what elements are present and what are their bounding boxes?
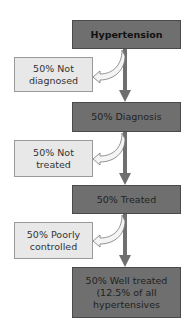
- poorly-controlled-label: 50% Poorly controlled: [25, 229, 82, 253]
- hypertension-box: Hypertension: [72, 20, 181, 49]
- not-diagnosed-box: 50% Not diagnosed: [14, 57, 93, 92]
- well-treated-label: 50% Well treated (12.5% of all hypertens…: [81, 275, 172, 311]
- well-treated-box: 50% Well treated (12.5% of all hypertens…: [72, 267, 181, 318]
- treated-box: 50% Treated: [72, 185, 181, 214]
- diagnosis-label: 50% Diagnosis: [91, 111, 161, 123]
- not-treated-label: 50% Not treated: [29, 147, 78, 171]
- branch-arrow-1: [93, 50, 125, 83]
- branch-arrow-2: [93, 133, 125, 165]
- hypertension-label: Hypertension: [90, 29, 162, 41]
- diagnosis-box: 50% Diagnosis: [72, 102, 181, 132]
- not-treated-box: 50% Not treated: [14, 140, 93, 177]
- treated-label: 50% Treated: [97, 194, 157, 206]
- not-diagnosed-label: 50% Not diagnosed: [23, 63, 84, 87]
- poorly-controlled-box: 50% Poorly controlled: [14, 222, 93, 259]
- branch-arrow-3: [93, 215, 125, 247]
